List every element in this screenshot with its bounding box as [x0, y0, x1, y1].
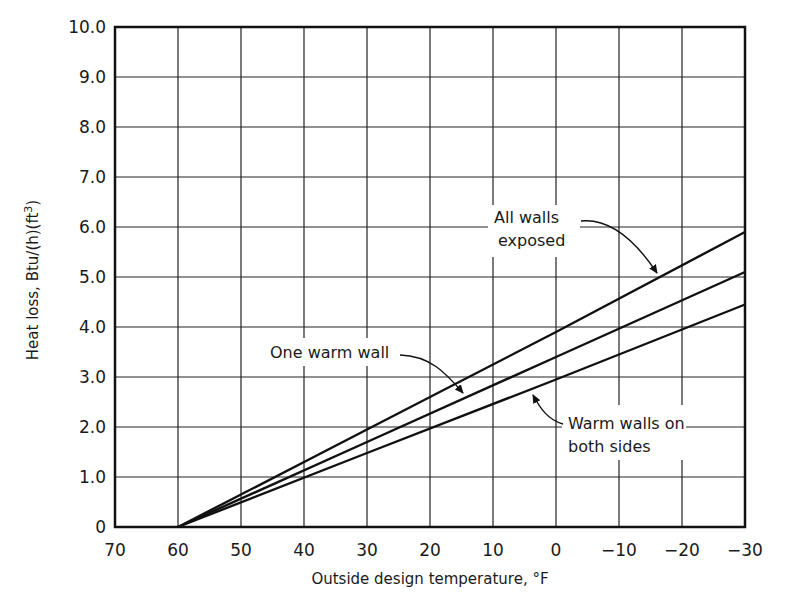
annotation-all-walls-exposed: All walls	[494, 208, 559, 227]
x-tick-label: 20	[419, 540, 441, 560]
annotation-one-warm-wall: One warm wall	[270, 343, 389, 362]
data-series	[178, 232, 745, 527]
y-tick-label: 5.0	[79, 267, 106, 287]
x-tick-label: −10	[601, 540, 637, 560]
x-tick-label: 30	[356, 540, 378, 560]
y-axis-label: Heat loss, Btu/(h)(ft3)	[22, 200, 42, 360]
x-tick-label: −30	[727, 540, 763, 560]
y-tick-label: 9.0	[79, 67, 106, 87]
series-annotations: All wallsexposedOne warm wallWarm walls …	[267, 205, 686, 460]
y-tick-label: 10.0	[68, 17, 106, 37]
heat-loss-chart: All wallsexposedOne warm wallWarm walls …	[0, 0, 785, 609]
y-tick-label: 8.0	[79, 117, 106, 137]
y-tick-label: 3.0	[79, 367, 106, 387]
y-tick-label: 4.0	[79, 317, 106, 337]
line-all-walls-exposed	[178, 232, 745, 527]
x-tick-label: −20	[664, 540, 700, 560]
arrow-icon	[533, 395, 563, 424]
annotation-all-walls-exposed: exposed	[498, 231, 565, 250]
y-tick-label: 2.0	[79, 417, 106, 437]
annotation-warm-walls-both-sides: Warm walls on	[568, 414, 685, 433]
x-tick-label: 50	[230, 540, 252, 560]
x-tick-label: 70	[104, 540, 126, 560]
y-tick-label: 0	[95, 517, 106, 537]
x-tick-label: 0	[551, 540, 562, 560]
x-axis-label: Outside design temperature, °F	[311, 570, 548, 588]
tick-labels: 706050403020100−10−20−3001.02.03.04.05.0…	[68, 17, 763, 560]
arrow-icon	[400, 355, 463, 393]
y-tick-label: 6.0	[79, 217, 106, 237]
x-tick-label: 40	[293, 540, 315, 560]
annotation-warm-walls-both-sides: both sides	[568, 437, 651, 456]
y-tick-label: 1.0	[79, 467, 106, 487]
x-tick-label: 60	[167, 540, 189, 560]
x-tick-label: 10	[482, 540, 504, 560]
y-tick-label: 7.0	[79, 167, 106, 187]
line-one-warm-wall	[178, 272, 745, 527]
